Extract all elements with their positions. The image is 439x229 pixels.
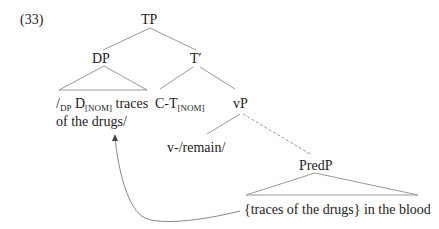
node-predp: PredP	[299, 158, 332, 174]
nom-feature: [NOM]	[85, 103, 112, 113]
node-tp: TP	[141, 12, 157, 28]
traces-word: traces	[116, 96, 149, 111]
d-head: D	[75, 96, 85, 111]
example-number: (33)	[20, 12, 43, 28]
c-t-head: C-T	[155, 96, 178, 111]
dp-subscript: DP	[60, 103, 72, 113]
node-v-head: v-/remain/	[167, 140, 225, 156]
predp-terminal: {traces of the drugs} in the blood	[244, 202, 431, 218]
dp-terminal-line1: /DP D[NOM] traces	[56, 96, 148, 113]
node-dp: DP	[92, 51, 110, 67]
ct-terminal: C-T[NOM]	[155, 96, 205, 113]
nom-feature-ct: [NOM]	[178, 103, 205, 113]
dp-terminal-line2: of the drugs/	[56, 114, 127, 130]
node-t-bar: T′	[190, 51, 202, 67]
node-vp: vP	[233, 96, 248, 112]
